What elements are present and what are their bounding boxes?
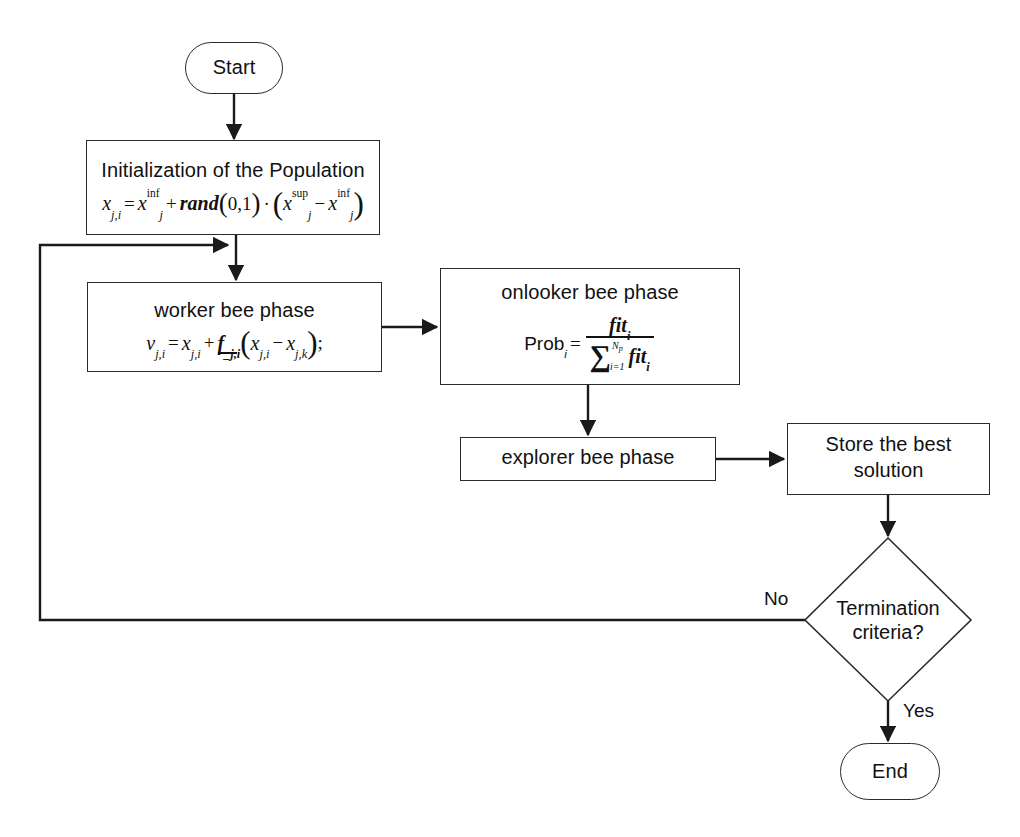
node-worker-bee-phase-formula: vj,i = xj,i + f_j,i ( xj,i − xj,k ) ; (146, 330, 323, 355)
formula-dot: · (260, 194, 272, 213)
worker-formula-plus: + (201, 333, 218, 352)
onlooker-formula-denominator: ∑ Np i=1 fiti (586, 338, 654, 372)
onlooker-formula-numerator: fiti (603, 315, 636, 336)
sigma-lower-limit: i=1 (610, 362, 625, 373)
worker-formula-x2: xj,i (251, 333, 270, 353)
flowchart-canvas: Start Initialization of the Population x… (0, 0, 1020, 837)
node-initialization[interactable]: Initialization of the Population xj,i = … (86, 140, 380, 235)
sigma-icon: ∑ (590, 343, 611, 369)
worker-formula-group-close: ) (307, 331, 317, 356)
formula-group-open: ( (273, 192, 283, 217)
formula-term-xsup: xsupj (283, 193, 311, 213)
node-initialization-label: Initialization of the Population (101, 159, 364, 183)
node-termination-criteria-label: Termination (836, 596, 939, 620)
formula-lhs: xj,i (102, 193, 121, 213)
formula-rand-args: 0,1 (228, 194, 252, 213)
edge-label-no: No (764, 588, 788, 610)
edge-label-yes: Yes (903, 700, 934, 722)
node-termination-criteria-label-line2: criteria? (852, 620, 923, 644)
node-onlooker-bee-phase-formula: Probi = fiti ∑ Np i=1 fiti (524, 315, 656, 372)
node-termination-criteria-label-wrap: Termination criteria? (805, 538, 971, 701)
node-onlooker-bee-phase[interactable]: onlooker bee phase Probi = fiti ∑ Np i=1… (440, 268, 740, 385)
worker-formula-semicolon: ; (317, 333, 322, 352)
worker-formula-equals: = (165, 333, 182, 352)
formula-group-close: ) (353, 192, 363, 217)
formula-term-xinf2: xinfj (328, 193, 353, 213)
node-end-label: End (872, 760, 908, 784)
node-onlooker-bee-phase-label: onlooker bee phase (501, 281, 679, 305)
node-termination-criteria[interactable]: Termination criteria? (805, 538, 971, 701)
onlooker-formula-fraction: fiti ∑ Np i=1 fiti (586, 315, 654, 372)
node-end[interactable]: End (840, 743, 940, 800)
onlooker-formula-sigma-limits: Np i=1 (610, 341, 625, 373)
node-store-best-solution[interactable]: Store the best solution (787, 423, 990, 495)
worker-formula-minus: − (269, 333, 286, 352)
worker-formula-lhs: vj,i (146, 333, 165, 353)
formula-paren-close: ) (251, 193, 260, 215)
formula-plus: + (163, 194, 180, 213)
worker-formula-x: xj,i (182, 333, 201, 353)
worker-formula-phi: f_j,i (217, 333, 240, 353)
onlooker-formula-lhs: Probi (524, 334, 567, 353)
node-worker-bee-phase-label: worker bee phase (154, 299, 315, 323)
node-initialization-formula: xj,i = xinfj + rand ( 0,1 ) · ( xsupj − … (102, 191, 364, 216)
sigma-upper-limit: Np (610, 341, 625, 352)
node-store-best-solution-label-line2: solution (854, 459, 924, 483)
node-start-label: Start (213, 56, 256, 80)
formula-term-xinf: xinfj (138, 193, 163, 213)
flowchart-connectors (0, 0, 1020, 837)
formula-minus: − (312, 194, 329, 213)
worker-formula-x3: xj,k (286, 333, 307, 353)
formula-equals: = (121, 194, 138, 213)
formula-paren-open: ( (219, 193, 228, 215)
node-explorer-bee-phase[interactable]: explorer bee phase (460, 437, 716, 481)
formula-rand: rand (180, 193, 219, 213)
node-worker-bee-phase[interactable]: worker bee phase vj,i = xj,i + f_j,i ( x… (87, 282, 382, 372)
node-explorer-bee-phase-label: explorer bee phase (501, 446, 674, 470)
onlooker-formula-equals: = (567, 334, 584, 353)
node-start[interactable]: Start (185, 42, 283, 94)
worker-formula-group-open: ( (240, 331, 250, 356)
node-store-best-solution-label: Store the best (826, 433, 952, 457)
